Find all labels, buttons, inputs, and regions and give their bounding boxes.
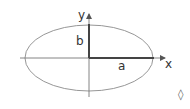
x-axis-label: x: [165, 57, 172, 71]
y-axis-label: y: [78, 8, 85, 22]
semi-major-label: a: [118, 59, 125, 73]
ellipse-diagram: y x b a ◊: [0, 0, 190, 109]
diamond-icon: ◊: [178, 88, 184, 101]
semi-minor-label: b: [76, 34, 84, 48]
